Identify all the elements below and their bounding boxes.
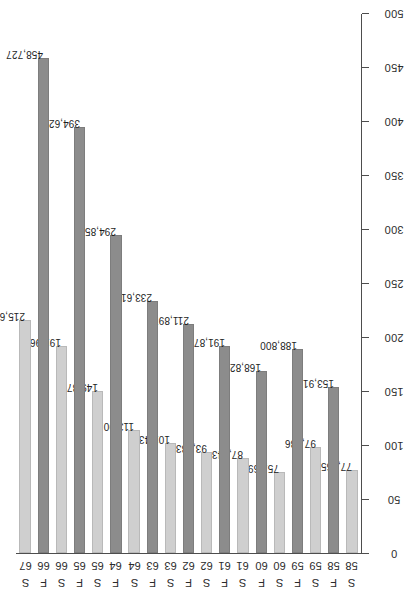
- category-series: F: [146, 577, 158, 588]
- bars-container: 77,26558S153,91958F97,88659S188,80059F75…: [16, 15, 361, 553]
- bar-group: 294,85564F: [110, 15, 121, 553]
- axis-tick-label: 250: [388, 264, 400, 304]
- category-series: S: [346, 577, 358, 588]
- category-series: S: [55, 577, 67, 588]
- category-year: 60: [253, 560, 269, 571]
- bar-group: 233,61263F: [147, 15, 158, 553]
- category-year: 65: [72, 560, 88, 571]
- bar-s-59[interactable]: [310, 447, 321, 553]
- category-year: 60: [271, 560, 287, 571]
- axis-tick-label: 200: [388, 318, 400, 358]
- axis-tick-label: 100: [388, 426, 400, 466]
- category-series: F: [183, 577, 195, 588]
- category-series: F: [291, 577, 303, 588]
- axis-tick: [362, 283, 369, 284]
- category-year: 66: [53, 560, 69, 571]
- axis-tick: [362, 553, 369, 554]
- bar-group: 458,72766F: [38, 15, 49, 553]
- bar-group: 149,87865S: [92, 15, 103, 553]
- category-year: 63: [162, 560, 178, 571]
- axis-tick: [362, 13, 369, 14]
- axis-tick-label: 300: [388, 210, 400, 250]
- bar-f-64[interactable]: [110, 235, 121, 553]
- bar-s-66[interactable]: [56, 346, 67, 553]
- bar-value-label: 215,656: [0, 311, 25, 322]
- category-year: 65: [90, 560, 106, 571]
- axis-tick-label: 0: [388, 534, 400, 574]
- bar-group: 191,96566S: [56, 15, 67, 553]
- axis-tick-label: 350: [388, 156, 400, 196]
- bar-group: 101,43663S: [165, 15, 176, 553]
- axis-tick: [362, 337, 369, 338]
- bar-chart-figure: 050100150200250300350400450500 77,26558S…: [0, 0, 414, 612]
- bar-s-58[interactable]: [346, 470, 357, 553]
- axis-tick: [362, 229, 369, 230]
- category-series: S: [273, 577, 285, 588]
- bar-group: 188,80059F: [292, 15, 303, 553]
- category-year: 61: [235, 560, 251, 571]
- bar-group: 153,91958F: [328, 15, 339, 553]
- axis-tick: [362, 67, 369, 68]
- category-year: 61: [217, 560, 233, 571]
- category-year: 63: [144, 560, 160, 571]
- category-year: 62: [199, 560, 215, 571]
- bar-group: 394,62165F: [74, 15, 85, 553]
- category-year: 59: [289, 560, 305, 571]
- bar-group: 168,82760F: [256, 15, 267, 553]
- bar-group: 97,88659S: [310, 15, 321, 553]
- category-series: S: [237, 577, 249, 588]
- bar-f-61[interactable]: [219, 346, 230, 553]
- axis-tick: [362, 175, 369, 176]
- category-year: 64: [126, 560, 142, 571]
- category-series: S: [19, 577, 31, 588]
- category-series: S: [164, 577, 176, 588]
- bar-group: 113,90164S: [128, 15, 139, 553]
- bar-group: 75,36960S: [274, 15, 285, 553]
- bar-group: 211,89762F: [183, 15, 194, 553]
- bar-group: 77,26558S: [346, 15, 357, 553]
- category-year: 66: [35, 560, 51, 571]
- category-series: S: [310, 577, 322, 588]
- category-series: S: [128, 577, 140, 588]
- bar-group: 215,65667S: [19, 15, 30, 553]
- bar-s-64[interactable]: [128, 430, 139, 553]
- bar-f-66[interactable]: [38, 58, 49, 553]
- category-series: S: [92, 577, 104, 588]
- axis-tick-label: 500: [388, 0, 400, 34]
- bar-f-59[interactable]: [292, 349, 303, 553]
- axis-tick: [362, 445, 369, 446]
- chart-plot-area: 050100150200250300350400450500 77,26558S…: [0, 0, 414, 612]
- category-series: S: [201, 577, 213, 588]
- bar-group: 87,84361S: [237, 15, 248, 553]
- category-series: F: [37, 577, 49, 588]
- category-year: 59: [308, 560, 324, 571]
- bar-f-65[interactable]: [74, 127, 85, 553]
- axis-tick-label: 400: [388, 102, 400, 142]
- axis-tick-label: 450: [388, 48, 400, 88]
- bar-s-61[interactable]: [237, 458, 248, 553]
- bar-s-63[interactable]: [165, 443, 176, 553]
- axis-tick: [362, 121, 369, 122]
- category-axis-line: [16, 553, 362, 554]
- category-year: 62: [181, 560, 197, 571]
- axis-tick-label: 150: [388, 372, 400, 412]
- bar-s-62[interactable]: [201, 452, 212, 553]
- bar-s-65[interactable]: [92, 391, 103, 553]
- axis-tick: [362, 499, 369, 500]
- bar-s-60[interactable]: [274, 472, 285, 553]
- category-year: 58: [326, 560, 342, 571]
- bar-s-67[interactable]: [19, 320, 30, 553]
- category-series: F: [219, 577, 231, 588]
- value-axis-line: [361, 14, 362, 554]
- bar-f-58[interactable]: [328, 387, 339, 553]
- bar-f-63[interactable]: [147, 301, 158, 553]
- bar-f-62[interactable]: [183, 324, 194, 553]
- category-year: 67: [17, 560, 33, 571]
- bar-f-60[interactable]: [256, 371, 267, 553]
- axis-tick: [362, 391, 369, 392]
- bar-group: 191,87661F: [219, 15, 230, 553]
- category-year: 58: [344, 560, 360, 571]
- category-year: 64: [108, 560, 124, 571]
- bar-group: 93,43362S: [201, 15, 212, 553]
- category-series: F: [74, 577, 86, 588]
